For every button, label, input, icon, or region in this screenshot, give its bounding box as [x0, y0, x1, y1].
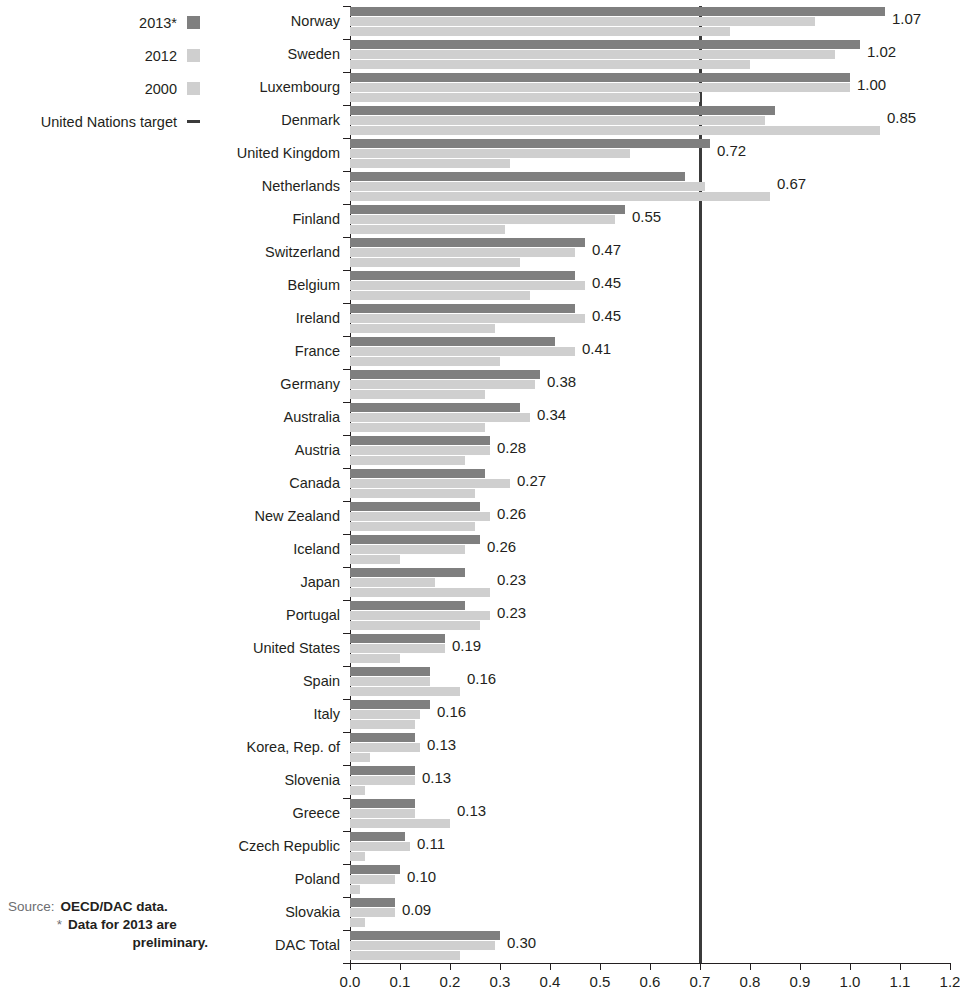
bar-group: 0.26 — [350, 501, 950, 534]
category-label: Spain — [0, 673, 340, 689]
y-axis-tick — [343, 930, 350, 931]
category-label: Czech Republic — [0, 838, 340, 854]
category-label: Netherlands — [0, 178, 340, 194]
bar-2012 — [350, 281, 585, 290]
y-axis-tick — [343, 468, 350, 469]
bar-2012 — [350, 611, 490, 620]
bar-2013 — [350, 700, 430, 709]
bar-value-label: 0.34 — [537, 406, 566, 423]
y-axis-tick — [343, 897, 350, 898]
bar-2012 — [350, 875, 395, 884]
category-label: Sweden — [0, 46, 340, 62]
category-label: Iceland — [0, 541, 340, 557]
bar-2012 — [350, 908, 395, 917]
bar-2013 — [350, 667, 430, 676]
bar-2012 — [350, 446, 490, 455]
bar-2000 — [350, 258, 520, 267]
x-axis-tick — [500, 963, 501, 970]
bar-2000 — [350, 357, 500, 366]
bar-value-label: 0.16 — [437, 703, 466, 720]
category-label: Germany — [0, 376, 340, 392]
bar-2000 — [350, 390, 485, 399]
y-axis-tick — [343, 369, 350, 370]
bar-2000 — [350, 522, 475, 531]
bar-2012 — [350, 248, 575, 257]
bar-group: 0.16 — [350, 666, 950, 699]
y-axis-tick — [343, 72, 350, 73]
bar-group: 0.09 — [350, 897, 950, 930]
bar-group: 0.67 — [350, 171, 950, 204]
category-label: Austria — [0, 442, 340, 458]
bar-2000 — [350, 423, 485, 432]
y-axis-tick — [343, 798, 350, 799]
bar-2013 — [350, 40, 860, 49]
category-label: Finland — [0, 211, 340, 227]
bar-2013 — [350, 73, 850, 82]
x-axis-tick — [800, 963, 801, 970]
bar-group: 0.11 — [350, 831, 950, 864]
bar-group: 0.13 — [350, 798, 950, 831]
y-axis-tick — [343, 765, 350, 766]
bar-value-label: 0.16 — [467, 670, 496, 687]
y-axis-tick — [343, 831, 350, 832]
bar-2012 — [350, 809, 415, 818]
bar-2013 — [350, 238, 585, 247]
bar-2013 — [350, 7, 885, 16]
bar-value-label: 0.26 — [497, 505, 526, 522]
bar-2012 — [350, 578, 435, 587]
bar-2000 — [350, 786, 365, 795]
x-axis-tick — [750, 963, 751, 970]
footnote-line: * Data for 2013 are — [8, 916, 208, 934]
bar-value-label: 1.07 — [892, 10, 921, 27]
bar-2012 — [350, 776, 415, 785]
x-axis-tick-label: 0.7 — [690, 973, 711, 990]
source-value: OECD/DAC data. — [61, 898, 168, 916]
bar-2012 — [350, 644, 445, 653]
bar-2013 — [350, 502, 480, 511]
x-axis-tick-label: 0.9 — [790, 973, 811, 990]
bar-2013 — [350, 337, 555, 346]
y-axis-tick — [343, 699, 350, 700]
bar-group: 0.13 — [350, 732, 950, 765]
bar-2013 — [350, 601, 465, 610]
x-axis-tick — [600, 963, 601, 970]
y-axis-tick — [343, 171, 350, 172]
category-label: Denmark — [0, 112, 340, 128]
bar-group: 0.10 — [350, 864, 950, 897]
footnote-text-line1: Data for 2013 are — [68, 916, 177, 934]
bar-2000 — [350, 489, 475, 498]
source-label: Source: — [8, 898, 61, 916]
bar-group: 0.30 — [350, 930, 950, 963]
bar-2012 — [350, 116, 765, 125]
bar-group: 0.28 — [350, 435, 950, 468]
bar-value-label: 0.09 — [402, 901, 431, 918]
bar-value-label: 0.13 — [457, 802, 486, 819]
bar-group: 0.85 — [350, 105, 950, 138]
bar-group: 1.00 — [350, 72, 950, 105]
bar-2013 — [350, 865, 400, 874]
x-axis-tick-label: 0.5 — [590, 973, 611, 990]
bar-value-label: 0.85 — [887, 109, 916, 126]
bar-2013 — [350, 205, 625, 214]
x-axis-tick-label: 0.3 — [490, 973, 511, 990]
bar-2012 — [350, 941, 495, 950]
x-axis-tick — [550, 963, 551, 970]
bar-value-label: 0.45 — [592, 307, 621, 324]
bar-group: 0.38 — [350, 369, 950, 402]
y-axis-tick — [343, 303, 350, 304]
bar-2013 — [350, 469, 485, 478]
y-axis-tick — [343, 732, 350, 733]
bar-2000 — [350, 555, 400, 564]
bar-value-label: 0.13 — [427, 736, 456, 753]
bar-2012 — [350, 545, 465, 554]
bar-2000 — [350, 93, 700, 102]
y-axis-tick — [343, 963, 350, 964]
bar-2000 — [350, 621, 480, 630]
bar-2012 — [350, 314, 585, 323]
bar-2013 — [350, 403, 520, 412]
bar-2013 — [350, 172, 685, 181]
y-axis-tick — [343, 237, 350, 238]
bar-2000 — [350, 126, 880, 135]
bar-2012 — [350, 743, 420, 752]
bar-group: 1.07 — [350, 6, 950, 39]
